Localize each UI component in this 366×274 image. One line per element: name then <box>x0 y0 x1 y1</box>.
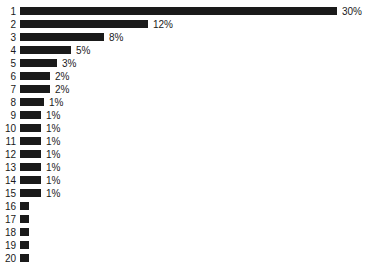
bar-track <box>20 226 366 239</box>
bar-row: 53% <box>0 57 366 70</box>
bar-category-label: 13 <box>0 161 16 174</box>
bar-track <box>20 200 366 213</box>
bar-value-label: 1% <box>49 96 63 109</box>
bar-row: 72% <box>0 83 366 96</box>
bar <box>20 98 44 106</box>
bar-value-label: 1% <box>46 161 60 174</box>
bar-row: 111% <box>0 135 366 148</box>
bar <box>20 215 29 223</box>
bar-track: 5% <box>20 44 366 57</box>
bar-track <box>20 239 366 252</box>
bar-track: 1% <box>20 122 366 135</box>
bar-value-label: 1% <box>46 109 60 122</box>
bar <box>20 72 50 80</box>
bar-value-label: 2% <box>55 83 69 96</box>
bar-category-label: 18 <box>0 226 16 239</box>
bar-row: 45% <box>0 44 366 57</box>
bar-track: 3% <box>20 57 366 70</box>
bar-track: 1% <box>20 135 366 148</box>
bar-track: 1% <box>20 187 366 200</box>
bar-category-label: 4 <box>0 44 16 57</box>
bar-track: 8% <box>20 31 366 44</box>
bar-track: 1% <box>20 96 366 109</box>
bar <box>20 85 50 93</box>
bar-value-label: 1% <box>46 135 60 148</box>
bar-category-label: 3 <box>0 31 16 44</box>
bar <box>20 189 41 197</box>
bar-track: 1% <box>20 148 366 161</box>
bar <box>20 202 29 210</box>
bar-category-label: 1 <box>0 5 16 18</box>
bar-row: 16 <box>0 200 366 213</box>
bar <box>20 46 71 54</box>
bar-track <box>20 252 366 265</box>
bar <box>20 150 41 158</box>
bar-category-label: 17 <box>0 213 16 226</box>
bar-row: 38% <box>0 31 366 44</box>
bar <box>20 33 104 41</box>
bar <box>20 241 29 249</box>
bar-row: 19 <box>0 239 366 252</box>
bar-value-label: 5% <box>76 44 90 57</box>
bar <box>20 228 29 236</box>
bar <box>20 137 41 145</box>
bar <box>20 163 41 171</box>
bar-value-label: 8% <box>109 31 123 44</box>
bar <box>20 254 29 262</box>
bar-track: 1% <box>20 109 366 122</box>
chart-title <box>0 0 366 3</box>
bar-track: 2% <box>20 70 366 83</box>
bar-row: 130% <box>0 5 366 18</box>
bar-category-label: 2 <box>0 18 16 31</box>
bar-value-label: 1% <box>46 148 60 161</box>
bar-row: 20 <box>0 252 366 265</box>
bar-category-label: 12 <box>0 148 16 161</box>
bar <box>20 20 148 28</box>
bar <box>20 111 41 119</box>
bar <box>20 176 41 184</box>
bar <box>20 59 57 67</box>
bar-value-label: 1% <box>46 122 60 135</box>
bar-value-label: 30% <box>342 5 362 18</box>
bar <box>20 7 337 15</box>
bar-category-label: 15 <box>0 187 16 200</box>
bar-category-label: 9 <box>0 109 16 122</box>
bar-category-label: 6 <box>0 70 16 83</box>
bar-value-label: 3% <box>62 57 76 70</box>
horizontal-bar-chart: 130%212%38%45%53%62%72%81%91%101%111%121… <box>0 0 366 274</box>
bar-row: 91% <box>0 109 366 122</box>
bar-category-label: 11 <box>0 135 16 148</box>
bar-row: 212% <box>0 18 366 31</box>
bar-track: 1% <box>20 174 366 187</box>
bar <box>20 124 41 132</box>
bar-row: 131% <box>0 161 366 174</box>
bar-row: 81% <box>0 96 366 109</box>
bar-value-label: 2% <box>55 70 69 83</box>
bar-category-label: 20 <box>0 252 16 265</box>
bar-row: 121% <box>0 148 366 161</box>
bar-category-label: 7 <box>0 83 16 96</box>
bar-row: 151% <box>0 187 366 200</box>
bar-value-label: 1% <box>46 174 60 187</box>
bar-track <box>20 213 366 226</box>
bar-track: 12% <box>20 18 366 31</box>
bar-row: 101% <box>0 122 366 135</box>
bar-track: 30% <box>20 5 366 18</box>
bar-category-label: 14 <box>0 174 16 187</box>
bar-row: 18 <box>0 226 366 239</box>
bar-category-label: 10 <box>0 122 16 135</box>
bar-value-label: 1% <box>46 187 60 200</box>
bar-row: 62% <box>0 70 366 83</box>
bar-category-label: 5 <box>0 57 16 70</box>
bar-category-label: 19 <box>0 239 16 252</box>
bar-row: 17 <box>0 213 366 226</box>
bar-value-label: 12% <box>153 18 173 31</box>
bar-category-label: 16 <box>0 200 16 213</box>
bar-category-label: 8 <box>0 96 16 109</box>
chart-plot-area: 130%212%38%45%53%62%72%81%91%101%111%121… <box>0 5 366 265</box>
bar-track: 2% <box>20 83 366 96</box>
bar-track: 1% <box>20 161 366 174</box>
bar-row: 141% <box>0 174 366 187</box>
